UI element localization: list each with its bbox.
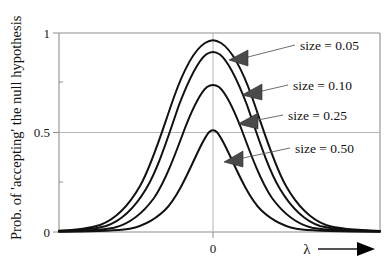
y-tick-label-1: 1	[44, 26, 51, 41]
series-label-size-0point10: size = 0.10	[293, 78, 352, 93]
y-tick-label-0: 0	[44, 225, 51, 240]
y-tick-label-0point5: 0.5	[34, 125, 50, 140]
x-axis-symbol-lambda: λ	[303, 241, 311, 257]
x-tick-label-0: 0	[210, 241, 217, 256]
chart-figure: 1 0.5 0 0 Prob. of 'accepting' the null …	[0, 0, 392, 266]
series-label-size-0point05: size = 0.05	[300, 38, 359, 53]
y-axis-title: Prob. of 'accepting' the null hypothesis	[8, 15, 24, 240]
series-label-size-0point50: size = 0.50	[295, 141, 354, 156]
operating-characteristic-chart: 1 0.5 0 0 Prob. of 'accepting' the null …	[0, 0, 392, 266]
series-label-size-0point25: size = 0.25	[288, 108, 347, 123]
